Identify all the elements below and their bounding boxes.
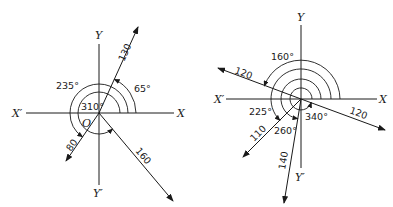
x-pos-label: X — [378, 93, 388, 106]
angle-label-160: 160° — [271, 51, 294, 62]
angle-arc-65 — [115, 80, 136, 114]
angle-label-225: 225° — [249, 106, 272, 117]
angle-label-65: 65° — [134, 83, 151, 94]
angle-arc-235 — [70, 113, 82, 137]
vector-160 — [99, 113, 173, 201]
angle-label-235: 235° — [56, 80, 79, 91]
angle-arc-160 — [264, 60, 340, 99]
vector-140 — [284, 99, 301, 203]
magnitude-label-140: 140 — [276, 151, 290, 171]
angle-label-260: 260° — [274, 125, 297, 136]
magnitude-label-130: 130 — [116, 42, 134, 63]
y-neg-label: Y′ — [295, 171, 305, 184]
magnitude-label-160: 160 — [133, 145, 153, 166]
angle-label-310: 310° — [81, 101, 104, 112]
vector-diagrams: X X′ Y Y′ O 130 80 160 65° 235° 310° — [0, 0, 393, 207]
right-diagram: X X′ Y Y′ 120 120 110 140 160° 225° 260°… — [213, 11, 388, 203]
angle-label-340: 340° — [305, 111, 328, 122]
magnitude-label-110: 110 — [248, 123, 269, 144]
magnitude-label-120-a: 120 — [233, 65, 254, 82]
magnitude-label-120-b: 120 — [348, 105, 369, 122]
y-pos-label: Y — [297, 11, 306, 24]
y-neg-label: Y′ — [93, 187, 103, 200]
y-pos-label: Y — [95, 29, 104, 42]
x-neg-label: X′ — [11, 107, 23, 120]
vector-130 — [99, 27, 138, 113]
x-pos-label: X — [176, 107, 186, 120]
magnitude-label-80: 80 — [64, 137, 80, 153]
origin-label: O — [82, 117, 91, 130]
left-diagram: X X′ Y Y′ O 130 80 160 65° 235° 310° — [11, 27, 186, 201]
x-neg-label: X′ — [213, 93, 225, 106]
